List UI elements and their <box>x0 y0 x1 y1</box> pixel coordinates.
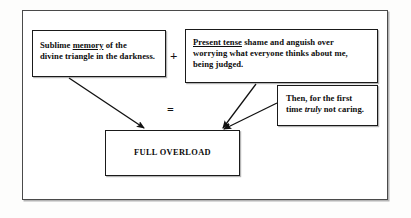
diagram-canvas: Sublime memory of thedivine triangle in … <box>0 0 411 218</box>
box-sublime-memory-text: Sublime memory of thedivine triangle in … <box>40 40 160 62</box>
then-line1: Then, for the first <box>286 93 352 103</box>
box-then-not-caring: Then, for the firsttime truly not caring… <box>277 85 378 126</box>
present-line2: worrying what everyone thinks about me, <box>193 48 348 58</box>
operator-equals: = <box>167 104 174 116</box>
memory-line1-after: of the <box>103 40 126 50</box>
present-line3: being judged. <box>193 59 243 69</box>
then-italic-word: truly <box>305 104 322 114</box>
box-sublime-memory: Sublime memory of thedivine triangle in … <box>32 30 166 77</box>
then-line2-before: time <box>286 104 305 114</box>
box-full-overload: FULL OVERLOAD <box>105 130 240 176</box>
box-then-not-caring-text: Then, for the firsttime truly not caring… <box>286 93 372 115</box>
present-underlined-phrase: Present tense <box>193 37 242 47</box>
memory-line1-before: Sublime <box>40 40 73 50</box>
box-present-tense-shame-text: Present tense shame and anguish overworr… <box>193 37 372 71</box>
operator-plus: + <box>170 49 177 62</box>
memory-underlined-word: memory <box>73 40 104 50</box>
present-line1-after: shame and anguish over <box>242 37 334 47</box>
memory-line2: divine triangle in the darkness. <box>40 51 155 61</box>
full-overload-label: FULL OVERLOAD <box>106 148 239 157</box>
then-line2-after: not caring. <box>322 104 364 114</box>
box-present-tense-shame: Present tense shame and anguish overworr… <box>185 29 378 83</box>
